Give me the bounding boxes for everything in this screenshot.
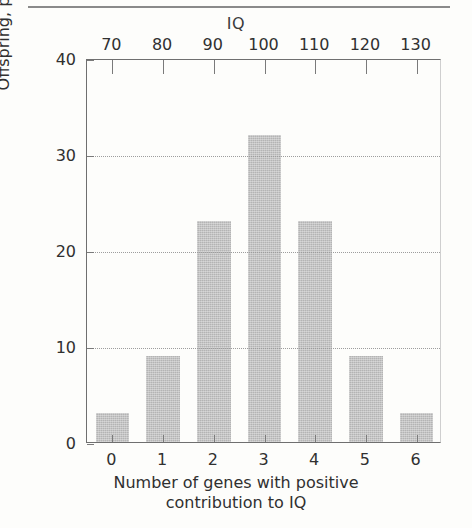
header-divider <box>28 6 450 8</box>
tick-mark-top <box>163 60 164 74</box>
tick-mark-top <box>417 60 418 74</box>
plot-area <box>86 59 441 443</box>
tick-mark-top <box>366 60 367 74</box>
tick-label-top: 110 <box>299 35 330 54</box>
tick-mark-left <box>87 348 94 349</box>
bar-chart-figure: IQ 708090100110120130 0123456 010203040 … <box>0 0 472 528</box>
tick-mark-left <box>87 444 94 445</box>
tick-mark-left <box>87 252 94 253</box>
tick-label-top: 90 <box>203 35 223 54</box>
tick-label-left: 10 <box>34 338 76 357</box>
tick-label-bottom: 5 <box>360 450 370 469</box>
tick-mark-bottom <box>366 435 367 442</box>
tick-label-top: 130 <box>400 35 431 54</box>
gridline <box>87 252 440 253</box>
tick-label-left: 20 <box>34 242 76 261</box>
tick-mark-bottom <box>265 435 266 442</box>
tick-label-bottom: 1 <box>157 450 167 469</box>
x-axis-title-line1: Number of genes with positive <box>113 473 358 492</box>
tick-mark-bottom <box>214 435 215 442</box>
tick-label-top: 70 <box>101 35 121 54</box>
tick-mark-bottom <box>163 435 164 442</box>
gridline <box>87 348 440 349</box>
tick-mark-top <box>112 60 113 74</box>
tick-label-top: 80 <box>152 35 172 54</box>
tick-label-left: 30 <box>34 146 76 165</box>
bar <box>349 356 382 442</box>
tick-label-bottom: 6 <box>411 450 421 469</box>
tick-mark-bottom <box>417 435 418 442</box>
tick-label-bottom: 4 <box>309 450 319 469</box>
tick-label-bottom: 2 <box>208 450 218 469</box>
tick-mark-top <box>214 60 215 74</box>
tick-mark-bottom <box>315 435 316 442</box>
tick-label-top: 100 <box>248 35 279 54</box>
tick-label-bottom: 0 <box>106 450 116 469</box>
bar <box>146 356 179 442</box>
tick-label-bottom: 3 <box>258 450 268 469</box>
bar <box>248 135 281 442</box>
tick-mark-left <box>87 60 94 61</box>
gridline <box>87 156 440 157</box>
y-axis-title: Offspring, percent <box>0 0 13 133</box>
x-axis-title: Number of genes with positive contributi… <box>0 473 472 513</box>
x-axis-title-line2: contribution to IQ <box>0 493 472 513</box>
tick-mark-top <box>265 60 266 74</box>
tick-mark-left <box>87 156 94 157</box>
tick-mark-top <box>315 60 316 74</box>
bar-series <box>87 60 440 442</box>
tick-mark-bottom <box>112 435 113 442</box>
tick-label-left: 0 <box>34 434 76 453</box>
bar <box>298 221 331 442</box>
bar <box>197 221 230 442</box>
tick-label-top: 120 <box>350 35 381 54</box>
top-axis-title: IQ <box>0 14 472 33</box>
tick-label-left: 40 <box>34 50 76 69</box>
